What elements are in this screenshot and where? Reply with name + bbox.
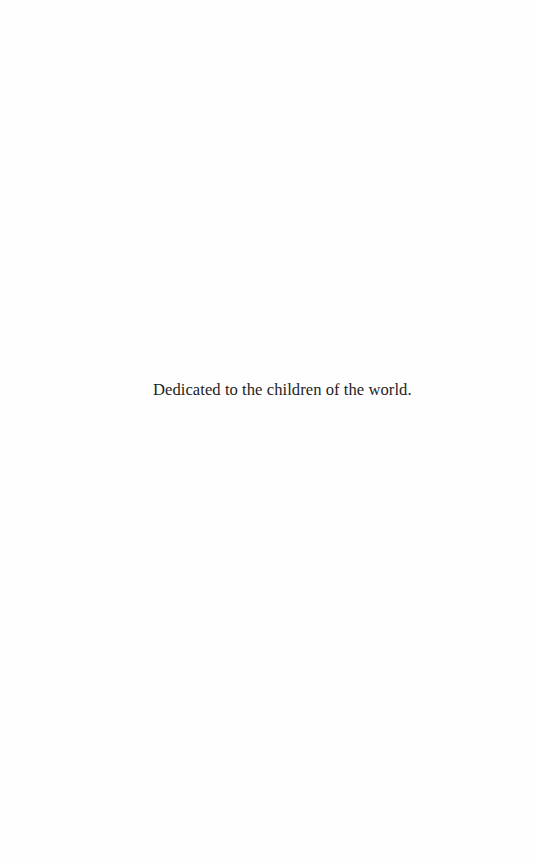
dedication-text: Dedicated to the children of the world.	[153, 380, 403, 400]
book-page: Dedicated to the children of the world.	[0, 0, 536, 865]
